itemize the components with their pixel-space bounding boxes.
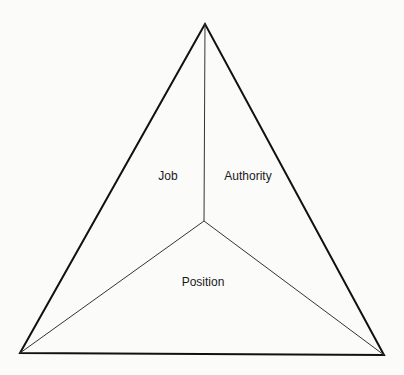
outer-triangle (20, 24, 384, 355)
divider-center-to-bottom-right (204, 221, 384, 355)
divider-center-to-bottom-left (20, 221, 204, 353)
divider-top-to-center (204, 24, 205, 221)
diagram-canvas: Job Authority Position (0, 0, 404, 375)
region-label-position: Position (182, 275, 225, 289)
region-label-job: Job (158, 169, 178, 183)
triangle-diagram: Job Authority Position (0, 0, 404, 375)
region-label-authority: Authority (224, 169, 271, 183)
